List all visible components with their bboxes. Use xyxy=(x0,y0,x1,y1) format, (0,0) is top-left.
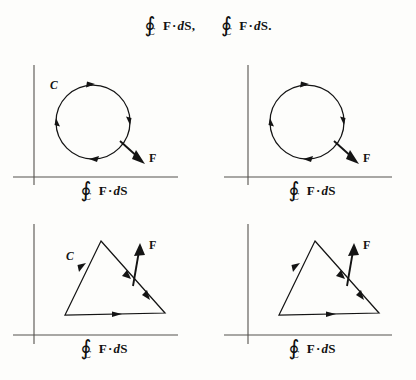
vector-f-arrowhead xyxy=(134,243,145,256)
vector-s: S xyxy=(328,183,335,198)
panel-top-right: F ∮C F·dS xyxy=(208,52,416,222)
integrand: F·dS xyxy=(163,18,192,34)
vector-f: F xyxy=(163,18,171,33)
integral-subscript: C xyxy=(84,350,90,360)
vector-s: S xyxy=(328,341,335,356)
vector-f-arrowhead xyxy=(346,150,359,164)
vector-f-label: F xyxy=(149,151,156,165)
vector-f: F xyxy=(99,183,107,198)
panel-caption: ∮C F·dS xyxy=(0,336,208,357)
integrand: F·dS xyxy=(99,183,128,199)
vector-f-arrowhead xyxy=(132,150,145,164)
curve-label-c: C xyxy=(50,79,58,91)
caption-integral: ∮C F·dS xyxy=(80,336,127,357)
direction-arrowhead-upper-right-edge xyxy=(336,270,345,279)
vector-f-label: F xyxy=(363,238,370,252)
header-integral-1: ∮C F·dS, xyxy=(145,13,195,34)
differential-d: d xyxy=(254,18,261,33)
integrand: F·dS xyxy=(307,183,336,199)
direction-arrowhead-upper-right-edge xyxy=(122,270,131,279)
diagram-circle-labeled: C F xyxy=(0,52,208,192)
diagram-triangle-labeled: C F xyxy=(0,216,208,356)
direction-arrowhead-right xyxy=(340,117,346,126)
caption-integral: ∮C F·dS xyxy=(80,178,127,199)
vector-f-arrowhead xyxy=(348,243,359,256)
direction-arrowhead-bottom xyxy=(303,156,313,162)
direction-arrowhead-left xyxy=(269,118,275,127)
panel-caption: ∮C F·dS xyxy=(208,178,416,199)
direction-arrowhead-left xyxy=(55,118,61,127)
curve-label-c: C xyxy=(66,250,74,262)
vector-f-label: F xyxy=(149,238,156,252)
integrand: F·dS xyxy=(239,18,268,34)
diagram-triangle-unlabeled: F xyxy=(208,216,416,356)
caption-integral: ∮C F·dS xyxy=(288,336,335,357)
direction-arrowhead-top xyxy=(86,82,95,88)
direction-arrowhead-bottom-edge xyxy=(112,312,122,318)
vector-f: F xyxy=(99,341,107,356)
vector-f: F xyxy=(307,341,315,356)
vector-s: S xyxy=(184,18,191,33)
header-integral-2: ∮C F·dS. xyxy=(221,13,271,34)
panel-bottom-right: F ∮C F·dS xyxy=(208,216,416,380)
closed-curve-circle xyxy=(56,85,130,159)
integral-subscript: C xyxy=(225,27,231,37)
direction-arrowhead-left-edge xyxy=(78,263,87,272)
integral-subscript: C xyxy=(84,192,90,202)
panel-caption: ∮C F·dS xyxy=(0,178,208,199)
vector-f-label: F xyxy=(363,151,370,165)
direction-arrowhead-left-edge xyxy=(292,263,301,272)
integrand: F·dS xyxy=(307,341,336,357)
panel-top-left: C F ∮C F·dS xyxy=(0,52,208,222)
panel-bottom-left: C F ∮C F·dS xyxy=(0,216,208,380)
direction-arrowhead-top xyxy=(300,82,309,88)
punctuation: . xyxy=(268,18,271,34)
integral-subscript: C xyxy=(149,27,155,37)
vector-s: S xyxy=(120,183,127,198)
header-formula-line: ∮C F·dS, ∮C F·dS. xyxy=(0,6,416,40)
direction-arrowhead-bottom-edge xyxy=(326,312,336,318)
diagram-circle-unlabeled: F xyxy=(208,52,416,192)
direction-arrowhead-bottom xyxy=(89,156,99,162)
vector-s: S xyxy=(120,341,127,356)
vector-f: F xyxy=(307,183,315,198)
vector-s: S xyxy=(261,18,268,33)
caption-integral: ∮C F·dS xyxy=(288,178,335,199)
closed-curve-circle xyxy=(270,85,344,159)
punctuation: , xyxy=(192,18,195,34)
integral-subscript: C xyxy=(292,350,298,360)
direction-arrowhead-right xyxy=(126,117,132,126)
integral-subscript: C xyxy=(292,192,298,202)
panel-caption: ∮C F·dS xyxy=(208,336,416,357)
closed-curve-triangle xyxy=(65,241,165,315)
closed-curve-triangle xyxy=(279,241,379,315)
figure-page: ∮C F·dS, ∮C F·dS. C F ∮C F·dS xyxy=(0,0,416,380)
integrand: F·dS xyxy=(99,341,128,357)
